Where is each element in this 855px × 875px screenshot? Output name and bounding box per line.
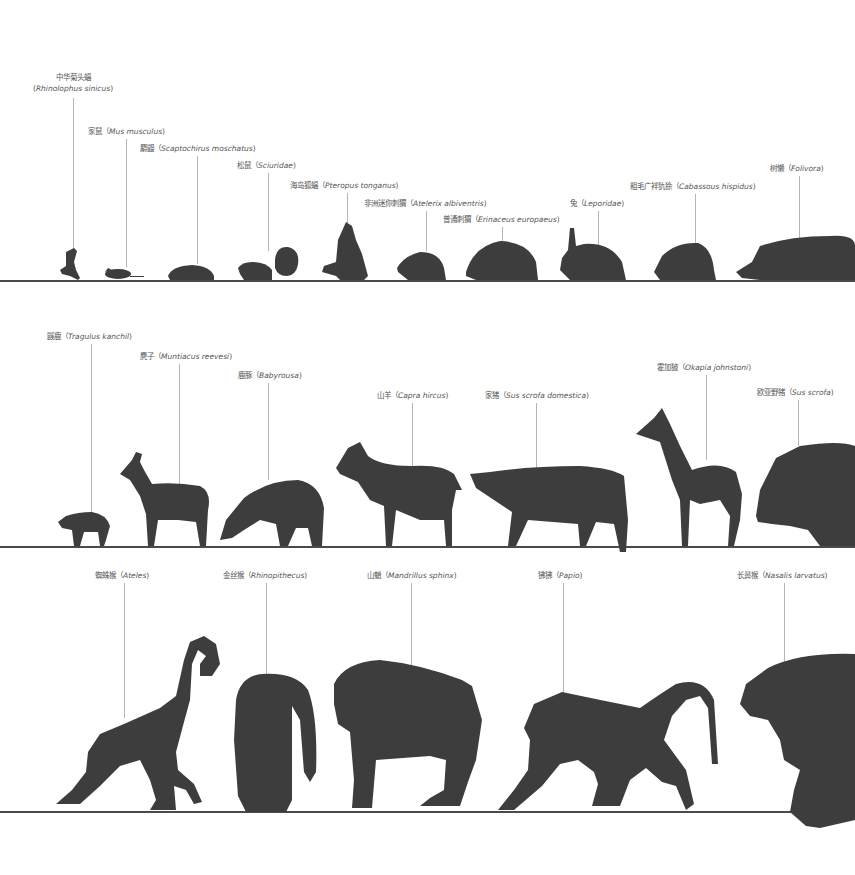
rabbit-silhouette-icon bbox=[560, 228, 626, 280]
okapi-silhouette-icon bbox=[636, 408, 742, 546]
baboon-silhouette-icon bbox=[498, 682, 718, 810]
flying-fox-silhouette-icon bbox=[322, 222, 368, 280]
babirusa-silhouette-icon bbox=[220, 480, 324, 546]
proboscis-monkey-silhouette-icon bbox=[740, 654, 855, 828]
animal-silhouettes bbox=[0, 0, 855, 875]
hedgehog-silhouette-icon bbox=[466, 241, 538, 280]
armadillo-silhouette-icon bbox=[654, 243, 716, 280]
bat-silhouette-icon bbox=[60, 248, 80, 280]
domestic-pig-silhouette-icon bbox=[470, 466, 628, 552]
mole-silhouette-icon bbox=[168, 265, 214, 280]
squirrel-silhouette-icon bbox=[238, 247, 298, 280]
wild-boar-silhouette-icon bbox=[756, 443, 855, 546]
spider-monkey-silhouette-icon bbox=[56, 636, 220, 810]
mouse-silhouette-icon bbox=[105, 268, 144, 279]
mandrill-silhouette-icon bbox=[334, 660, 482, 808]
goat-silhouette-icon bbox=[336, 442, 462, 546]
muntjac-silhouette-icon bbox=[120, 452, 209, 546]
mouse-deer-silhouette-icon bbox=[58, 512, 110, 546]
size-comparison-diagram: 中华菊头蝠 (Rhinolophus sinicus) 家鼠（Mus muscu… bbox=[0, 0, 855, 875]
sloth-silhouette-icon bbox=[736, 236, 855, 280]
golden-snub-nosed-monkey-silhouette-icon bbox=[234, 674, 316, 812]
hedgehog-small-silhouette-icon bbox=[397, 252, 446, 280]
